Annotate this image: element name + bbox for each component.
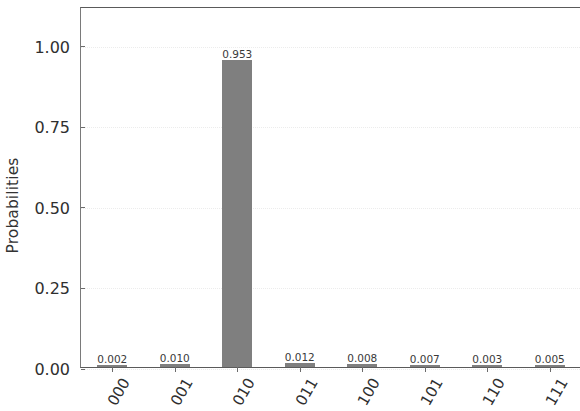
x-tick-label: 011 (293, 376, 320, 408)
y-tick-label: 0.75 (34, 120, 81, 136)
x-tick-mark (550, 367, 551, 372)
bar-value-label: 0.003 (472, 354, 502, 365)
x-tick-label: 010 (231, 376, 258, 408)
x-tick-label: 000 (106, 376, 133, 408)
gridline (81, 47, 580, 48)
gridline (81, 288, 580, 289)
x-tick-mark (175, 367, 176, 372)
x-tick-label: 001 (168, 376, 195, 408)
bar-value-label: 0.008 (347, 353, 377, 364)
y-tick-label: 1.00 (34, 39, 81, 55)
y-tick-mark (81, 288, 85, 289)
x-tick-mark (425, 367, 426, 372)
x-tick-mark (300, 367, 301, 372)
gridline (81, 208, 580, 209)
bar-value-label: 0.002 (97, 354, 127, 365)
y-tick-mark (81, 369, 85, 370)
bar (222, 60, 252, 367)
bar-value-label: 0.012 (285, 352, 315, 363)
x-tick-mark (112, 367, 113, 372)
bar-value-label: 0.007 (410, 353, 440, 364)
x-tick-label: 111 (543, 376, 570, 408)
x-tick-label: 110 (481, 376, 508, 408)
x-tick-mark (487, 367, 488, 372)
y-axis-title: Probabilities (2, 0, 24, 411)
y-tick-mark (81, 127, 85, 128)
y-tick-mark (81, 46, 85, 47)
bar-value-label: 0.953 (222, 48, 252, 59)
gridline (81, 127, 580, 128)
plot-area: 0.000.250.500.751.000.0020000.0100010.95… (80, 7, 580, 368)
x-tick-mark (237, 367, 238, 372)
bar-value-label: 0.005 (535, 354, 565, 365)
y-tick-mark (81, 207, 85, 208)
x-tick-label: 101 (418, 376, 445, 408)
y-tick-label: 0.50 (34, 200, 81, 216)
x-tick-mark (362, 367, 363, 372)
x-tick-label: 100 (356, 376, 383, 408)
gridline (81, 369, 580, 370)
y-tick-label: 0.25 (34, 281, 81, 297)
y-tick-label: 0.00 (34, 362, 81, 378)
bar-value-label: 0.010 (160, 352, 190, 363)
